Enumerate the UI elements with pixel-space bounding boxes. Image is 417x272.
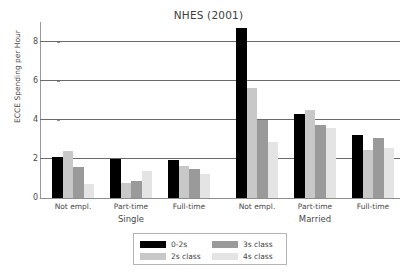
bar (326, 128, 337, 198)
y-tick-label: 2 (22, 154, 38, 163)
legend-entry[interactable]: 2s class (140, 252, 201, 261)
bar (189, 169, 200, 198)
bar (110, 159, 121, 198)
legend-swatch (212, 253, 238, 260)
bar-group (168, 22, 210, 198)
plot-inner (40, 22, 400, 198)
legend-entry[interactable]: 0-2s (140, 240, 187, 249)
bar (315, 125, 326, 198)
bar (373, 138, 384, 198)
legend-label: 3s class (243, 240, 273, 249)
y-tick-label: 0 (22, 193, 38, 202)
bar (294, 114, 305, 198)
x-tick-label: Not empl. (43, 202, 103, 211)
bar (257, 120, 268, 198)
x-tick-label: Part-time (285, 202, 345, 211)
bar (305, 110, 316, 198)
x-tick-label: Full-time (159, 202, 219, 211)
y-tick-label: 8 (22, 37, 38, 46)
bar (142, 171, 153, 198)
bar (268, 142, 279, 198)
x-group-label: Single (91, 214, 171, 224)
y-axis-tick-labels: 02468 (18, 22, 38, 198)
bar-group (52, 22, 94, 198)
bar (200, 174, 211, 198)
bar-group (294, 22, 336, 198)
chart-title: NHES (2001) (0, 9, 417, 21)
x-tick-label: Full-time (343, 202, 403, 211)
legend-entry[interactable]: 4s class (212, 252, 273, 261)
legend-label: 2s class (171, 252, 201, 261)
bar (121, 183, 132, 198)
chart-figure: NHES (2001) ECCE Spending per Hour 02468… (0, 0, 417, 272)
bar (363, 150, 374, 198)
legend-entry[interactable]: 3s class (212, 240, 273, 249)
gridline (40, 80, 400, 81)
gridline (40, 158, 400, 159)
bar (73, 167, 84, 198)
bar (52, 157, 63, 198)
x-tick-label: Not empl. (227, 202, 287, 211)
bar-group (352, 22, 394, 198)
legend-label: 0-2s (171, 240, 187, 249)
bar-group (110, 22, 152, 198)
plot-area (40, 22, 400, 198)
bar (247, 88, 258, 198)
bar (384, 148, 395, 198)
y-tick-label: 6 (22, 76, 38, 85)
y-tick-label: 4 (22, 115, 38, 124)
bar (131, 181, 142, 198)
bar (179, 166, 190, 198)
x-group-label: Married (275, 214, 355, 224)
bar (63, 151, 74, 198)
chart-legend: 0-2s2s class3s class4s class (133, 233, 287, 265)
legend-swatch (212, 241, 238, 248)
bar (168, 160, 179, 198)
gridline (40, 41, 400, 42)
bar-group (236, 22, 278, 198)
legend-swatch (140, 253, 166, 260)
bar (84, 184, 95, 198)
legend-swatch (140, 241, 166, 248)
gridline (40, 119, 400, 120)
bar (236, 28, 247, 198)
x-tick-label: Part-time (101, 202, 161, 211)
legend-label: 4s class (243, 252, 273, 261)
x-axis-line (40, 198, 400, 199)
bar (352, 135, 363, 198)
